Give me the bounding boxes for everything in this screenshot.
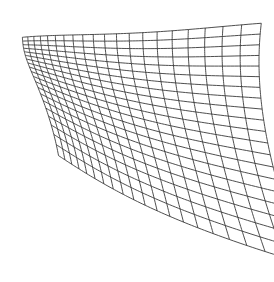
figure-canvas xyxy=(0,0,274,282)
warped-grid-figure xyxy=(0,0,274,282)
